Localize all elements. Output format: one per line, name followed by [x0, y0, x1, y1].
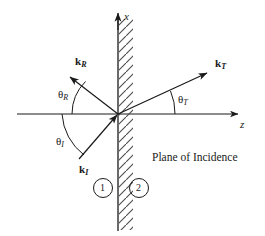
theta-incident-subscript: I	[61, 140, 64, 149]
theta-r-arc	[72, 82, 86, 115]
medium-1-label: 1	[100, 183, 105, 193]
theta-i-arc	[62, 114, 84, 155]
plane-of-incidence-caption: Plane of Incidence	[152, 152, 238, 164]
x-axis-label: x	[124, 11, 129, 22]
reflected-ray	[70, 77, 118, 114]
interface-hatching	[119, 19, 133, 230]
theta-transmitted-subscript: T	[183, 98, 187, 107]
k-reflected-subscript: R	[81, 60, 86, 69]
k-transmitted-label: kT	[215, 58, 226, 71]
k-incident-label: kI	[79, 164, 88, 177]
medium-2-label: 2	[136, 183, 141, 193]
ray-diagram-graphic	[0, 0, 265, 236]
k-reflected-label: kR	[75, 56, 86, 69]
theta-incident-label: θI	[56, 136, 64, 149]
theta-t-arc	[171, 91, 176, 114]
theta-reflected-subscript: R	[63, 93, 68, 102]
theta-transmitted-label: θT	[178, 94, 188, 107]
figure-canvas: x z kR kT kI θR θI θT Plane of Incidence…	[0, 0, 265, 236]
theta-reflected-label: θR	[58, 89, 68, 102]
incident-ray	[79, 115, 117, 159]
k-transmitted-subscript: T	[221, 62, 226, 71]
z-axis-label: z	[240, 119, 244, 130]
k-incident-subscript: I	[85, 168, 88, 177]
